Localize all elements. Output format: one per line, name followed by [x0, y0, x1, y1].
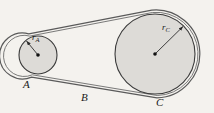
radius-c-symbol: r — [162, 22, 166, 32]
radius-c-subscript: C — [166, 26, 170, 33]
label-belt-point-b: B — [81, 92, 88, 103]
radius-a-symbol: r — [32, 32, 36, 42]
label-radius-a: rA — [32, 33, 40, 42]
label-pulley-a: A — [23, 79, 30, 90]
figure-canvas — [0, 0, 214, 113]
belt-pulley-figure: A B C rA rC — [0, 0, 214, 113]
pulley-a-center-dot — [36, 53, 40, 57]
label-pulley-c: C — [156, 97, 163, 108]
label-radius-c: rC — [162, 23, 170, 32]
radius-a-subscript: A — [36, 36, 40, 43]
pulley-c-center-dot — [153, 52, 157, 56]
